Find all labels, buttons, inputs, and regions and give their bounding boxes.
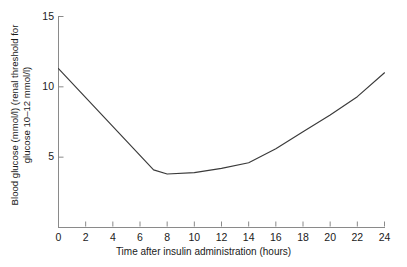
x-axis-ticks: [86, 222, 385, 227]
x-tick-label-14: 14: [237, 231, 261, 243]
x-tick-label-2: 2: [74, 231, 98, 243]
axes: [59, 16, 386, 228]
y-axis-tick-labels: 51015: [30, 0, 54, 267]
x-tick-label-10: 10: [182, 231, 206, 243]
plot-area: [58, 16, 385, 228]
x-tick-label-6: 6: [128, 231, 152, 243]
x-tick-label-18: 18: [291, 231, 315, 243]
y-axis-ticks: [59, 17, 64, 158]
x-tick-label-20: 20: [318, 231, 342, 243]
x-tick-label-0: 0: [47, 231, 71, 243]
y-axis-title-line-1: Blood glucose (mmol/l) (renal threshold …: [9, 25, 21, 206]
x-tick-label-8: 8: [155, 231, 179, 243]
y-tick-label-15: 15: [32, 11, 54, 22]
x-tick-label-16: 16: [264, 231, 288, 243]
x-tick-label-4: 4: [101, 231, 125, 243]
glucose-line-series: [59, 69, 385, 175]
x-tick-label-24: 24: [373, 231, 397, 243]
x-tick-label-12: 12: [210, 231, 234, 243]
chart-figure: Blood glucose (mmol/l) (renal threshold …: [0, 0, 407, 267]
chart-canvas: [58, 16, 385, 228]
y-tick-label-5: 5: [32, 151, 54, 162]
x-tick-label-22: 22: [345, 231, 369, 243]
y-tick-label-10: 10: [32, 81, 54, 92]
x-axis-title: Time after insulin administration (hours…: [0, 246, 407, 257]
x-axis-tick-labels: 024681012141618202224: [0, 231, 407, 247]
